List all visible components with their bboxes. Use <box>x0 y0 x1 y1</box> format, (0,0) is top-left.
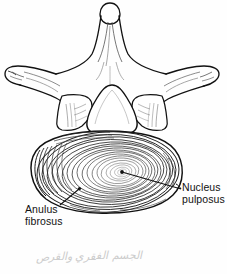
label-nucleus-line2: pulposus <box>182 194 225 206</box>
vertebra-illustration-svg <box>0 0 227 274</box>
anatomy-figure: Anulus fibrosus Nucleus pulposus الجسم ا… <box>0 0 227 274</box>
label-anulus-line1: Anulus <box>25 204 63 216</box>
label-anulus-fibrosus: Anulus fibrosus <box>25 204 63 227</box>
label-anulus-line2: fibrosus <box>25 216 63 228</box>
handwritten-annotation: الجسم الفقري والقرص <box>36 247 196 272</box>
vertebral-foramen <box>87 85 137 135</box>
spinous-process <box>56 3 166 84</box>
label-nucleus-pulposus: Nucleus pulposus <box>182 182 225 205</box>
label-nucleus-line1: Nucleus <box>182 182 225 194</box>
